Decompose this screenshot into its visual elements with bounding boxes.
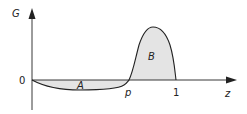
- g-vs-z-diagram: G 0 A B p 1 z: [0, 0, 247, 114]
- origin-label: 0: [19, 75, 25, 86]
- region-a-label: A: [76, 80, 84, 91]
- tick-1-label: 1: [173, 87, 179, 98]
- tick-p-label: p: [124, 87, 131, 98]
- x-axis-arrow-icon: [226, 77, 237, 84]
- y-axis-label: G: [12, 8, 20, 19]
- x-axis-label: z: [224, 88, 231, 99]
- y-axis-arrow-icon: [29, 8, 36, 19]
- region-b-label: B: [148, 51, 155, 62]
